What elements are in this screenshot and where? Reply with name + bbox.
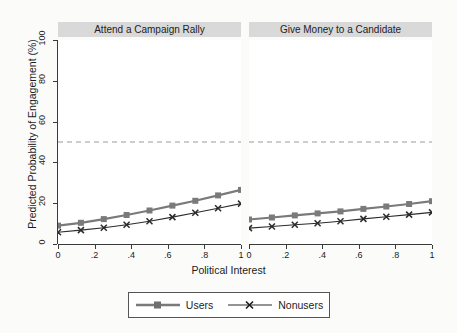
- x-tick-mark: [58, 245, 59, 249]
- y-tick-mark: [53, 81, 57, 82]
- x-tick-label: .8: [194, 250, 214, 260]
- legend-label-users: Users: [186, 299, 213, 311]
- data-point-marker: [292, 212, 298, 218]
- x-tick-mark: [241, 245, 242, 249]
- data-point-marker: [383, 204, 389, 210]
- panel-plot-area: [58, 40, 241, 244]
- x-tick-mark: [286, 245, 287, 249]
- x-tick-label: .4: [121, 250, 141, 260]
- x-tick-label: 0: [239, 250, 259, 260]
- y-tick-label: 80: [34, 74, 50, 84]
- y-tick-mark: [53, 122, 57, 123]
- x-tick-label: .4: [312, 250, 332, 260]
- x-tick-label: .2: [276, 250, 296, 260]
- data-point-marker: [338, 208, 344, 214]
- panel-attend-a-campaign-rally: [58, 40, 241, 244]
- x-tick-mark: [432, 245, 433, 249]
- panel-give-money-to-a-candidate: [249, 40, 432, 244]
- y-tick-mark: [53, 162, 57, 163]
- series-users: [249, 198, 432, 222]
- data-point-marker: [78, 220, 84, 226]
- x-tick-mark: [95, 245, 96, 249]
- x-tick-label: 0: [48, 250, 68, 260]
- x-tick-label: 1: [422, 250, 442, 260]
- x-tick-mark: [322, 245, 323, 249]
- data-point-marker: [169, 203, 175, 209]
- legend-swatch-nonusers-icon: [227, 299, 273, 311]
- x-tick-mark: [131, 245, 132, 249]
- legend-entry-nonusers: Nonusers: [227, 299, 323, 311]
- y-tick-label: 40: [34, 155, 50, 165]
- series-users: [58, 187, 241, 229]
- data-point-marker: [215, 192, 221, 198]
- y-tick-label: 20: [34, 196, 50, 206]
- y-tick-mark: [53, 203, 57, 204]
- series-nonusers: [58, 201, 241, 236]
- data-point-marker: [192, 198, 198, 204]
- y-tick-label: 100: [34, 33, 50, 43]
- y-tick-label: 0: [34, 237, 50, 247]
- legend-swatch-users-icon: [135, 299, 181, 311]
- data-point-marker: [429, 198, 432, 204]
- x-tick-label: .2: [85, 250, 105, 260]
- x-axis-line: [249, 244, 432, 245]
- panel-title-left: Attend a Campaign Rally: [58, 22, 241, 37]
- x-tick-mark: [204, 245, 205, 249]
- data-point-marker: [147, 208, 153, 214]
- x-tick-mark: [359, 245, 360, 249]
- panel-plot-area: [249, 40, 432, 244]
- x-axis-title: Political Interest: [0, 264, 457, 276]
- data-point-marker: [360, 206, 366, 212]
- x-tick-mark: [168, 245, 169, 249]
- data-point-marker: [269, 215, 275, 221]
- y-axis-title: Predicted Probability of Engagement (%): [26, 17, 38, 252]
- data-point-marker: [249, 217, 252, 223]
- legend-label-nonusers: Nonusers: [278, 299, 323, 311]
- data-point-marker: [406, 201, 412, 207]
- x-tick-mark: [249, 245, 250, 249]
- x-axis-line: [58, 244, 241, 245]
- panel-title-right: Give Money to a Candidate: [249, 22, 432, 37]
- x-tick-mark: [395, 245, 396, 249]
- legend-entry-users: Users: [135, 299, 213, 311]
- chart-legend: Users Nonusers: [128, 292, 330, 318]
- data-point-marker: [124, 212, 130, 218]
- x-tick-label: .8: [385, 250, 405, 260]
- data-point-marker: [58, 223, 61, 229]
- data-point-marker: [315, 210, 321, 216]
- y-axis-line: [57, 40, 58, 244]
- x-tick-label: .6: [349, 250, 369, 260]
- data-point-marker: [101, 216, 107, 222]
- y-tick-label: 60: [34, 115, 50, 125]
- data-point-marker: [238, 187, 241, 193]
- chart-figure: Predicted Probability of Engagement (%) …: [0, 0, 457, 333]
- y-tick-mark: [53, 244, 57, 245]
- y-tick-mark: [53, 40, 57, 41]
- x-tick-label: .6: [158, 250, 178, 260]
